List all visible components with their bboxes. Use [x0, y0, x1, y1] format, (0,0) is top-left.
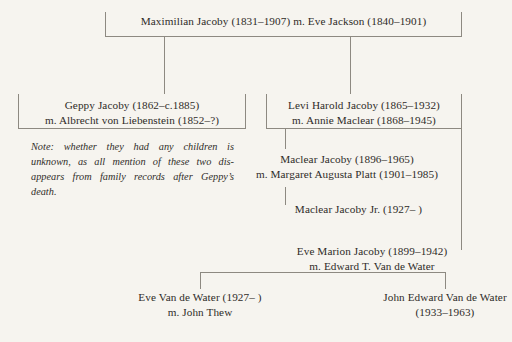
person-name-line: Geppy Jacoby (1862–c.1885): [18, 98, 246, 113]
person-maclear-jacoby-jr: Maclear Jacoby Jr. (1927– ): [255, 202, 462, 217]
person-name-line: Maclear Jacoby Jr. (1927– ): [255, 202, 462, 217]
person-maclear-jacoby: Maclear Jacoby (1896–1965) m. Margaret A…: [232, 152, 462, 183]
connector-root-to-geppy: [164, 36, 165, 94]
person-john-edward-van-de-water: John Edward Van de Water (1933–1963): [356, 290, 512, 321]
connector-levi-baseline: [266, 128, 462, 129]
person-name-line: Eve Van de Water (1927– ): [112, 290, 288, 305]
connector-root-baseline: [105, 36, 462, 37]
person-geppy-jacoby: Geppy Jacoby (1862–c.1885) m. Albrecht v…: [18, 98, 246, 129]
connector-levi-to-maclear: [285, 128, 286, 149]
person-spouse-line: m. John Thew: [112, 305, 288, 320]
person-spouse-line: m. Annie Maclear (1868–1945): [266, 113, 462, 128]
connector-geppy-baseline: [18, 128, 246, 129]
person-dates-line: (1933–1963): [356, 305, 512, 320]
person-name-line: Levi Harold Jacoby (1865–1932): [266, 98, 462, 113]
connector-eve-marion-to-john-edward-vdw: [445, 272, 446, 289]
person-maximilian-jacoby: Maximilian Jacoby (1831–1907) m. Eve Jac…: [105, 14, 462, 29]
person-eve-marion-jacoby: Eve Marion Jacoby (1899–1942) m. Edward …: [282, 244, 462, 275]
connector-root-right-upright: [461, 12, 462, 36]
note-line: Note: whether they had any children is: [31, 140, 234, 155]
connector-geppy-right-upright: [245, 94, 246, 128]
person-spouse-line: m. Margaret Augusta Platt (1901–1985): [232, 167, 462, 182]
connector-eve-marion-to-eve-vdw: [200, 272, 201, 289]
person-name-line: Eve Marion Jacoby (1899–1942): [282, 244, 462, 259]
connector-root-left-upright: [105, 12, 106, 36]
note-line: death.: [31, 185, 234, 200]
connector-root-to-levi: [350, 36, 351, 94]
person-name-line: John Edward Van de Water: [356, 290, 512, 305]
connector-levi-right-upright: [461, 94, 462, 128]
connector-levi-to-eve-marion: [461, 128, 462, 250]
person-name-line: Maclear Jacoby (1896–1965): [232, 152, 462, 167]
person-eve-van-de-water: Eve Van de Water (1927– ) m. John Thew: [112, 290, 288, 321]
person-levi-harold-jacoby: Levi Harold Jacoby (1865–1932) m. Annie …: [266, 98, 462, 129]
person-spouse-line: m. Albrecht von Liebenstein (1852–?): [18, 113, 246, 128]
connector-geppy-left-upright: [18, 94, 19, 128]
connector-levi-left-upright: [266, 94, 267, 128]
note-line: unknown, as all mention of these two dis…: [31, 155, 234, 170]
person-name-line: Maximilian Jacoby (1831–1907) m. Eve Jac…: [105, 14, 462, 29]
editorial-note-geppy: Note: whether they had any children is u…: [31, 140, 234, 200]
note-line: appears from family records after Geppy’…: [31, 170, 234, 185]
connector-eve-marion-baseline: [200, 272, 446, 273]
